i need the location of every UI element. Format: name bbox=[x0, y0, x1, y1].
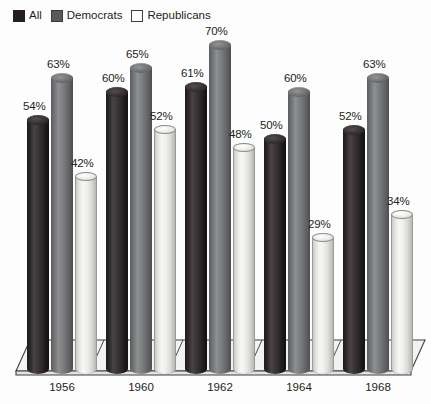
black-swatch-icon bbox=[13, 10, 25, 22]
bar-democrats-1964 bbox=[288, 91, 310, 374]
legend-label-all: All bbox=[29, 10, 42, 22]
dark-gray-swatch-icon bbox=[51, 10, 63, 22]
cylinder-top-cap bbox=[130, 63, 152, 73]
cylinder-body bbox=[27, 119, 49, 374]
white-swatch-icon bbox=[131, 10, 143, 22]
chart-legend: All Democrats Republicans bbox=[13, 10, 211, 22]
value-label-republicans-1960: 52% bbox=[150, 110, 172, 122]
value-label-democrats-1968: 63% bbox=[363, 58, 385, 70]
value-label-republicans-1964: 29% bbox=[308, 218, 330, 230]
cylinder-top-cap bbox=[185, 82, 207, 92]
cylinder-body bbox=[130, 67, 152, 374]
legend-label-republicans: Republicans bbox=[147, 10, 210, 22]
cylinder-top-cap bbox=[264, 134, 286, 144]
cylinder-body bbox=[288, 91, 310, 374]
bar-republicans-1962 bbox=[233, 147, 255, 374]
value-label-democrats-1964: 60% bbox=[284, 72, 306, 84]
bar-chart: 19561960196219641968 54%63%42%60%65%52%6… bbox=[0, 0, 431, 404]
bar-all-1968 bbox=[343, 129, 365, 374]
cylinder-top-cap bbox=[391, 210, 413, 219]
value-label-republicans-1968: 34% bbox=[387, 195, 409, 207]
cylinder-body bbox=[209, 44, 231, 374]
bar-all-1960 bbox=[106, 91, 128, 374]
bar-democrats-1968 bbox=[367, 77, 389, 374]
cylinder-top-cap bbox=[312, 233, 334, 242]
value-label-democrats-1960: 65% bbox=[126, 48, 148, 60]
cylinder-body bbox=[312, 237, 334, 374]
bar-republicans-1960 bbox=[154, 129, 176, 374]
cylinder-top-cap bbox=[233, 143, 255, 152]
cylinder-body bbox=[185, 86, 207, 374]
bar-democrats-1962 bbox=[209, 44, 231, 374]
cylinder-body bbox=[391, 214, 413, 374]
cylinder-body bbox=[233, 147, 255, 374]
bar-all-1956 bbox=[27, 119, 49, 374]
bar-all-1962 bbox=[185, 86, 207, 374]
cylinder-body bbox=[75, 176, 97, 374]
cylinder-top-cap bbox=[209, 40, 231, 50]
cylinder-body bbox=[367, 77, 389, 374]
value-label-all-1960: 60% bbox=[102, 72, 124, 84]
cylinder-top-cap bbox=[343, 125, 365, 135]
cylinder-body bbox=[343, 129, 365, 374]
legend-label-democrats: Democrats bbox=[67, 10, 123, 22]
cylinder-top-cap bbox=[367, 73, 389, 83]
cylinder-body bbox=[154, 129, 176, 374]
x-axis-label-1968: 1968 bbox=[331, 381, 425, 393]
value-label-all-1956: 54% bbox=[23, 100, 45, 112]
cylinder-body bbox=[264, 138, 286, 374]
cylinder-top-cap bbox=[154, 125, 176, 134]
value-label-democrats-1962: 70% bbox=[205, 25, 227, 37]
cylinder-body bbox=[106, 91, 128, 374]
bar-democrats-1956 bbox=[51, 77, 73, 374]
legend-item-democrats: Democrats bbox=[51, 10, 123, 22]
bar-republicans-1956 bbox=[75, 176, 97, 374]
cylinder-top-cap bbox=[288, 87, 310, 97]
value-label-democrats-1956: 63% bbox=[47, 58, 69, 70]
cylinder-body bbox=[51, 77, 73, 374]
cylinder-top-cap bbox=[51, 73, 73, 83]
bar-all-1964 bbox=[264, 138, 286, 374]
cylinder-top-cap bbox=[106, 87, 128, 97]
cylinder-top-cap bbox=[75, 172, 97, 181]
value-label-republicans-1962: 48% bbox=[229, 128, 251, 140]
value-label-all-1968: 52% bbox=[339, 110, 361, 122]
legend-item-all: All bbox=[13, 10, 42, 22]
value-label-republicans-1956: 42% bbox=[71, 157, 93, 169]
bar-democrats-1960 bbox=[130, 67, 152, 374]
value-label-all-1962: 61% bbox=[181, 67, 203, 79]
cylinder-top-cap bbox=[27, 115, 49, 125]
legend-item-republicans: Republicans bbox=[131, 10, 210, 22]
bar-republicans-1968 bbox=[391, 214, 413, 374]
bar-republicans-1964 bbox=[312, 237, 334, 374]
value-label-all-1964: 50% bbox=[260, 119, 282, 131]
